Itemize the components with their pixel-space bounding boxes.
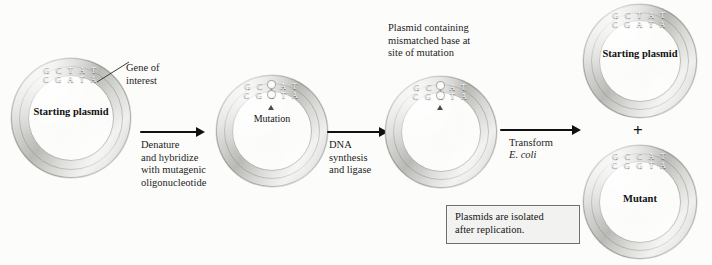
- plasmid-lumen: [401, 92, 481, 172]
- arrow-step-synthesis: [327, 128, 389, 137]
- arrow-step-denature: [140, 128, 206, 137]
- plasmid-hybridized: G C T A T C G G T A Mutation: [216, 75, 328, 187]
- gene-of-interest-label: Gene of interest: [126, 62, 188, 87]
- diagram-canvas: G C T A T C G A T A Starting plasmid Gen…: [0, 0, 712, 265]
- arrow-step-transform: [500, 126, 582, 135]
- mutation-bulge-bottom: [437, 92, 444, 99]
- mutation-bulge-top: [268, 81, 275, 88]
- mutation-pointer-icon: [268, 105, 274, 110]
- plus-sign: +: [633, 122, 643, 139]
- note-box-plasmid-isolation: Plasmids are isolated after replication.: [446, 205, 580, 244]
- plasmid-lumen: [28, 75, 114, 161]
- plasmid-label: Starting plasmid: [583, 48, 697, 60]
- step-denature-label: Denature and hybridize with mutagenic ol…: [141, 139, 221, 189]
- plasmid-label: Starting plasmid: [11, 106, 131, 118]
- strand-top-sequence: G C C A T: [583, 152, 697, 161]
- plasmid-label: Mutant: [583, 193, 697, 205]
- plasmid-lumen: [599, 20, 681, 102]
- strand-top-sequence: G C T A T: [583, 11, 697, 20]
- step-transform-label: Transform: [509, 137, 579, 150]
- mutation-bulge-bottom: [268, 91, 275, 98]
- plasmid-lumen: [232, 91, 312, 171]
- strand-bottom-sequence: C G A T A: [583, 20, 697, 29]
- plasmid-mismatched: G C T A T C G G T A: [385, 76, 497, 188]
- plasmid-mutant: G C C A T C G G T A Mutant: [583, 145, 697, 259]
- strand-bottom-sequence: C G G T A: [583, 161, 697, 170]
- mutation-pointer-icon: [437, 105, 443, 110]
- step-transform-organism: E. coli: [509, 149, 579, 162]
- mismatch-caption: Plasmid containing mismatched base at si…: [388, 22, 504, 60]
- mutation-label: Mutation: [216, 113, 328, 124]
- plasmid-starting-2: G C T A T C G A T A Starting plasmid: [583, 4, 697, 118]
- mutation-bulge-top: [437, 82, 444, 89]
